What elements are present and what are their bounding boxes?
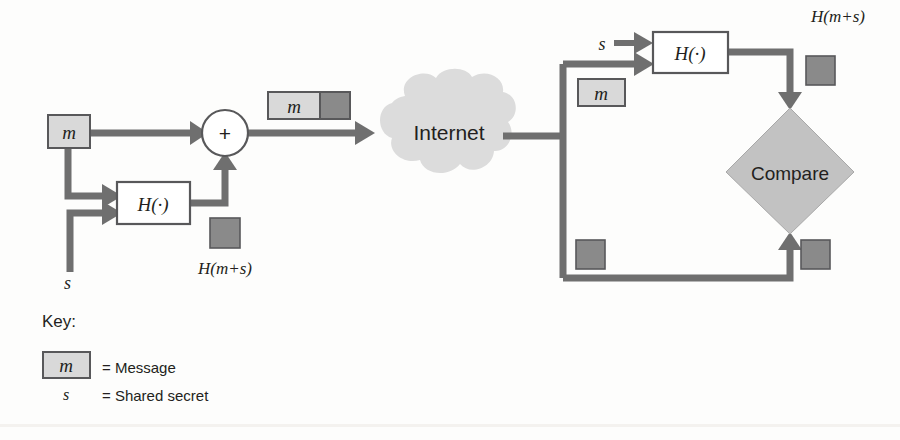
sender-adder-to-internet-link [248,121,375,145]
sender-message-to-adder-link [90,121,208,145]
receiver-message-to-hash-link [563,52,654,76]
sender-message-box: m [48,115,90,148]
legend-message-text: = Message [102,359,176,376]
receiver-hash-function-label: H(·) [673,43,705,65]
legend-entry-secret: s = Shared secret [63,386,209,404]
sender-digest-swatch [210,218,240,248]
sender-message-to-hash-link [68,148,122,208]
legend: Key: m = Message s = Shared secret [42,312,209,404]
receiver-hash-function-box: H(·) [653,32,728,73]
receiver-hash-to-compare-link [728,52,802,110]
compare-node-label: Compare [751,163,829,184]
sender-digest-label: H(m+s) [197,259,252,278]
legend-heading: Key: [42,312,76,331]
legend-secret-symbol: s [63,386,69,403]
receiver-computed-digest-swatch [806,56,835,85]
receiver-message-box: m [578,79,625,106]
receiver-digest-label: H(m+s) [810,7,865,26]
receiver-secret-label: s [598,34,605,54]
sender-message-box-label: m [62,122,76,143]
received-digest-swatch-left [576,240,605,269]
sender-hash-to-adder-link [190,152,237,203]
authentication-diagram: m s H(·) H(m+s) + m Internet [0,0,900,440]
sender-combiner: + [202,110,248,156]
figure-canvas: m s H(·) H(m+s) + m Internet [0,0,900,440]
legend-secret-text: = Shared secret [102,387,209,404]
sender-hash-function-box: H(·) [117,182,190,224]
transmitted-packet-message-label: m [287,96,301,117]
legend-entry-message: m = Message [43,352,176,378]
receiver-message-box-label: m [594,83,608,104]
legend-message-symbol: m [59,355,73,376]
sender-combiner-label: + [219,122,231,145]
sender-hash-function-label: H(·) [136,194,168,216]
transmitted-packet: m [268,92,350,119]
internet-cloud-label: Internet [413,121,484,144]
internet-cloud: Internet [380,69,516,173]
receiver-secret-link [614,32,653,54]
received-digest-swatch-right [801,240,830,269]
compare-node: Compare [726,108,854,234]
sender-secret-label: s [64,273,71,293]
sender-secret-link [70,201,122,272]
